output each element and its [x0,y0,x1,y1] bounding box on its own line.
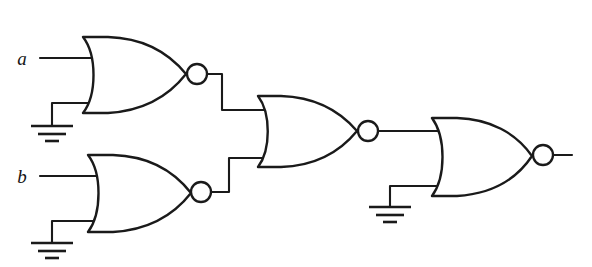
nor-gate-bottom-left [88,155,211,232]
logic-circuit-figure: a b [0,0,592,267]
wire-gate1-output-to-gate3-input [207,74,266,110]
nor-gate-middle [258,96,378,167]
nor-gate-top-left-body [83,37,186,113]
circuit-diagram-canvas: a b [0,0,592,267]
nor-gate-middle-bubble [358,121,378,141]
nor-gate-output-bubble [533,145,553,165]
ground-symbol-gate4 [369,186,440,222]
ground-symbol-gate1 [31,103,92,141]
nor-gate-bottom-left-body [88,155,191,232]
input-label-a: a [17,48,27,69]
input-label-b: b [17,166,27,187]
nor-gate-top-left [83,37,207,113]
input-wires-group [40,58,96,176]
nor-gate-output [432,118,553,196]
nor-gate-middle-body [258,96,357,167]
nor-gate-bottom-left-bubble [191,182,211,202]
wire-gate2-output-to-gate3-input [211,158,266,192]
nor-gate-output-body [432,118,532,196]
ground-symbol-gate2 [31,221,96,258]
nor-gate-top-left-bubble [187,64,207,84]
